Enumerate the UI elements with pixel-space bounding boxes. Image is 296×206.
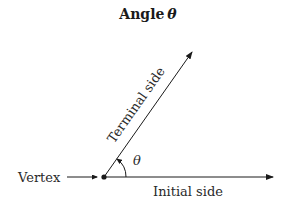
angle-arc-icon — [117, 159, 126, 177]
terminal-side-label: Terminal side — [104, 64, 168, 146]
initial-side-label: Initial side — [153, 184, 223, 199]
terminal-side-ray — [104, 52, 192, 177]
angle-theta-label: θ — [133, 153, 141, 168]
vertex-dot — [101, 174, 106, 179]
vertex-label: Vertex — [17, 170, 61, 185]
angle-diagram: Vertex Initial side Terminal side θ — [0, 0, 296, 206]
